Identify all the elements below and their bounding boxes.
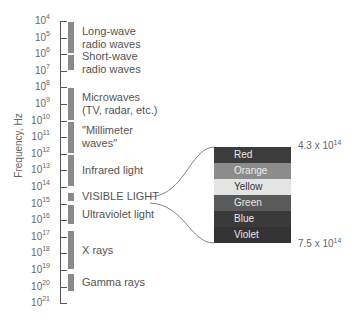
spectrum-band-green: Green (214, 195, 291, 211)
spectrum-band-yellow: Yellow (214, 179, 291, 195)
visible-spectrum: RedOrangeYellowGreenBlueViolet (214, 147, 291, 243)
visible-light-connector (0, 0, 360, 319)
spectrum-band-blue: Blue (214, 211, 291, 227)
low-frequency-label: 4.3 x 1014 (298, 140, 341, 151)
high-frequency-label: 7.5 x 1014 (298, 238, 341, 249)
spectrum-band-violet: Violet (214, 227, 291, 243)
spectrum-band-red: Red (214, 147, 291, 163)
spectrum-band-orange: Orange (214, 163, 291, 179)
